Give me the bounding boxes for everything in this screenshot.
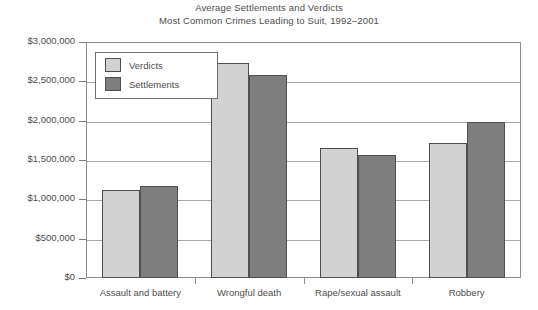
y-axis: $0$500,000$1,000,000$1,500,000$2,000,000… [0,0,86,310]
x-tick-mark [195,278,196,284]
legend-swatch-verdicts-icon [105,58,121,72]
legend-swatch-settlements-icon [105,77,121,91]
y-tick-mark [79,81,86,82]
x-axis: Assault and batteryWrongful deathRape/se… [86,278,521,310]
y-tick-mark [79,160,86,161]
bar-verdicts [102,190,140,278]
y-tick-label: $500,000 [35,233,75,243]
y-tick-label: $3,000,000 [27,36,75,46]
y-tick-mark [79,42,86,43]
x-category-label: Rape/sexual assault [304,287,413,298]
x-category-label: Wrongful death [195,287,304,298]
x-category-label: Assault and battery [86,287,195,298]
bar-verdicts [320,148,358,278]
chart-legend: Verdicts Settlements [95,52,218,99]
y-tick-label: $1,500,000 [27,154,75,164]
bar-settlements [358,155,396,278]
y-tick-mark [79,121,86,122]
legend-item-settlements: Settlements [105,77,179,91]
bar-settlements [140,186,178,278]
y-tick-label: $0 [64,272,75,282]
y-tick-label: $2,000,000 [27,115,75,125]
y-tick-label: $1,000,000 [27,193,75,203]
y-tick-label: $2,500,000 [27,75,75,85]
x-tick-mark [304,278,305,284]
legend-label-settlements: Settlements [129,79,179,90]
bar-settlements [467,122,505,278]
x-category-label: Robbery [412,287,521,298]
y-tick-mark [79,199,86,200]
y-tick-mark [79,278,86,279]
legend-item-verdicts: Verdicts [105,58,163,72]
y-tick-mark [79,239,86,240]
x-tick-mark [412,278,413,284]
bar-chart: Average Settlements and Verdicts Most Co… [0,0,538,310]
bar-verdicts [429,143,467,278]
legend-label-verdicts: Verdicts [129,60,163,71]
bar-settlements [249,75,287,278]
